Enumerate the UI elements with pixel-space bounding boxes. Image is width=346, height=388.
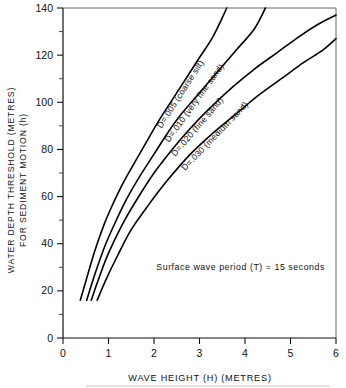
- y-tick-label: 20: [41, 284, 53, 296]
- x-tick-label: 2: [151, 347, 157, 359]
- x-tick-label: 3: [197, 347, 203, 359]
- y-tick-label: 80: [41, 143, 53, 155]
- x-tick-label: 6: [333, 347, 339, 359]
- x-tick-label: 0: [60, 347, 66, 359]
- y-tick-label: 100: [35, 96, 53, 108]
- y-tick-label: 0: [47, 332, 53, 344]
- x-tick-label: 4: [242, 347, 248, 359]
- x-tick-label: 1: [106, 347, 112, 359]
- y-tick-label: 60: [41, 190, 53, 202]
- y-tick-label: 40: [41, 237, 53, 249]
- svg-text:WATER DEPTH THRESHOLD (METRES): WATER DEPTH THRESHOLD (METRES): [6, 87, 16, 273]
- chart-annotations: Surface wave period (T) = 15 seconds: [156, 262, 325, 272]
- y-tick-label: 140: [35, 2, 53, 14]
- x-axis-title: WAVE HEIGHT (H) (METRES): [128, 373, 271, 383]
- y-tick-label: 120: [35, 49, 53, 61]
- x-tick-label: 5: [288, 347, 294, 359]
- chart-figure: 0204060801001201400123456 D=.005 (coarse…: [0, 0, 346, 388]
- wave-height-vs-depth-threshold-chart: 0204060801001201400123456 D=.005 (coarse…: [0, 0, 346, 388]
- svg-text:WAVE HEIGHT (H) (METRES): WAVE HEIGHT (H) (METRES): [128, 373, 271, 383]
- svg-text:FOR SEDIMENT MOTION (h): FOR SEDIMENT MOTION (h): [18, 113, 28, 247]
- wave-period-note: Surface wave period (T) = 15 seconds: [156, 262, 325, 272]
